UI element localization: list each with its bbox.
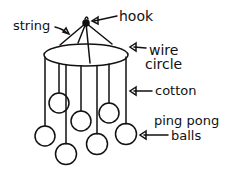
label-balls-2: balls [171,128,201,143]
label-balls-1: ping pong [154,113,219,128]
wire-circle [44,44,128,66]
label-wire-circle-2: circle [145,56,182,72]
cotton-threads [45,57,126,144]
ping-pong-balls [35,93,137,165]
label-hook: hook [119,8,154,24]
label-cotton: cotton [155,83,197,98]
mobile-diagram: hook string wire circle cotton ping pong… [0,0,229,173]
strings [60,23,112,63]
label-string: string [13,18,50,33]
